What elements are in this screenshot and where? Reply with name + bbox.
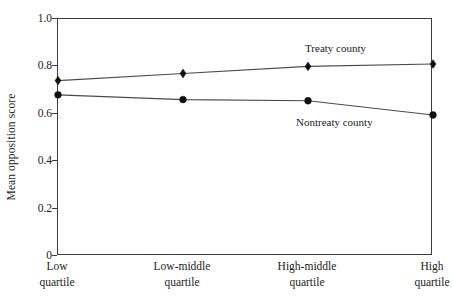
data-point-marker bbox=[430, 60, 436, 69]
x-tick-label-high-middle-quartile: High-middle quartile bbox=[242, 259, 372, 290]
y-tick-label-3: 0.6 bbox=[11, 108, 57, 119]
data-point-marker bbox=[180, 69, 186, 78]
x-tick-line2: quartile bbox=[117, 275, 247, 291]
plot-area bbox=[57, 18, 432, 255]
series-canvas bbox=[58, 19, 433, 256]
x-tick-line1: Low-middle bbox=[117, 259, 247, 275]
x-tick-line1: High-middle bbox=[242, 259, 372, 275]
data-point-marker bbox=[55, 91, 62, 98]
x-tick-line2: quartile bbox=[0, 275, 122, 291]
y-tick-mark-6 bbox=[52, 255, 57, 256]
series-label-treaty-county: Treaty county bbox=[305, 42, 366, 54]
y-tick-label-5: 0.2 bbox=[11, 203, 57, 214]
x-tick-line2: quartile bbox=[367, 275, 453, 291]
x-tick-label-high-quartile: High quartile bbox=[367, 259, 453, 290]
y-tick-label-1: 1.0 bbox=[11, 13, 57, 24]
series-line-treaty-county bbox=[58, 64, 433, 81]
series-line-nontreaty-county bbox=[58, 95, 433, 115]
data-point-marker bbox=[305, 97, 312, 104]
data-point-marker bbox=[305, 62, 311, 71]
line-chart-figure: Mean opposition score 1.0 0.8 0.6 0.4 0.… bbox=[0, 0, 453, 296]
x-tick-line1: High bbox=[367, 259, 453, 275]
data-point-marker bbox=[430, 112, 437, 119]
data-point-marker bbox=[180, 96, 187, 103]
x-axis-ticks: Low quartile Low-middle quartile High-mi… bbox=[0, 259, 453, 296]
y-tick-label-2: 0.8 bbox=[11, 60, 57, 71]
y-tick-label-4: 0.4 bbox=[11, 155, 57, 166]
x-tick-label-low-quartile: Low quartile bbox=[0, 259, 122, 290]
series-label-nontreaty-county: Nontreaty county bbox=[296, 116, 373, 128]
x-tick-line1: Low bbox=[0, 259, 122, 275]
x-tick-label-low-middle-quartile: Low-middle quartile bbox=[117, 259, 247, 290]
x-tick-line2: quartile bbox=[242, 275, 372, 291]
y-axis-ticks: 1.0 0.8 0.6 0.4 0.2 0 bbox=[0, 0, 57, 296]
